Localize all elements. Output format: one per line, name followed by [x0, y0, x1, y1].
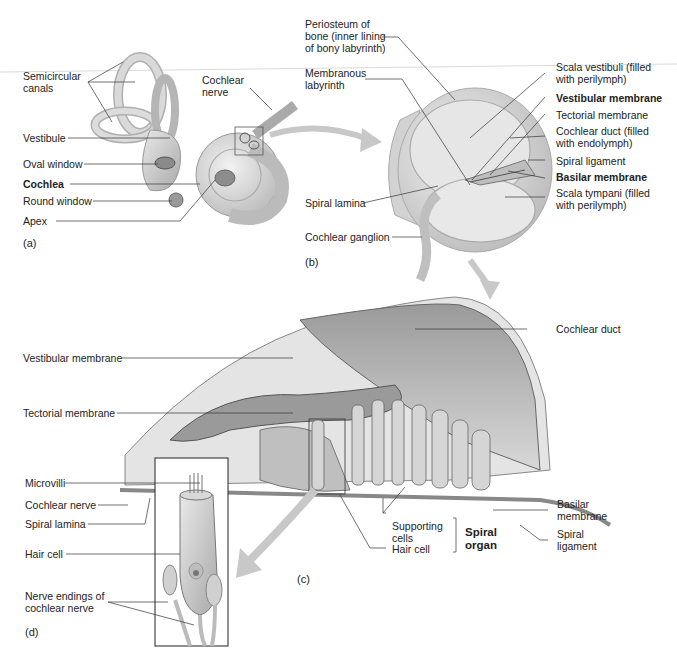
label-vestibule: Vestibule: [23, 132, 66, 144]
label-cochlear-duct-b: Cochlear duct (filled with endolymph): [556, 125, 649, 149]
panel-label-b: (b): [305, 256, 318, 268]
label-round-window: Round window: [23, 195, 92, 207]
label-tectorial-membrane-c: Tectorial membrane: [23, 407, 115, 419]
label-spiral-ligament-c: Spiral ligament: [557, 528, 597, 552]
label-supporting-cells: Supporting cells: [392, 520, 443, 544]
label-basilar-membrane-b: Basilar membrane: [556, 171, 647, 183]
label-oval-window: Oval window: [23, 158, 83, 170]
label-apex: Apex: [23, 215, 47, 227]
label-hair-cell-d: Hair cell: [25, 548, 63, 560]
label-basilar-membrane-c: Basilar membrane: [557, 498, 607, 522]
label-tectorial-membrane-b: Tectorial membrane: [556, 109, 648, 121]
label-nerve-endings: Nerve endings of cochlear nerve: [25, 590, 104, 614]
panel-label-d: (d): [25, 626, 38, 638]
label-cochlea: Cochlea: [23, 178, 64, 190]
label-scala-tympani: Scala tympani (filled with perilymph): [556, 187, 650, 211]
label-periosteum: Periosteum of bone (inner lining of bony…: [305, 18, 386, 54]
label-hair-cell-c: Hair cell: [392, 543, 430, 555]
label-vestibular-membrane-c: Vestibular membrane: [23, 352, 122, 364]
panel-label-a: (a): [23, 237, 36, 249]
label-cochlear-nerve-a: Cochlear nerve: [202, 74, 244, 98]
cochlea-cross-section-drawing: [389, 88, 552, 300]
label-vestibular-membrane-b: Vestibular membrane: [556, 92, 662, 104]
label-spiral-ligament-b: Spiral ligament: [556, 155, 625, 167]
label-membranous-labyrinth: Membranous labyrinth: [305, 67, 366, 91]
label-semicircular-canals: Semicircular canals: [23, 70, 81, 94]
label-cochlear-duct-c: Cochlear duct: [556, 323, 621, 335]
label-microvilli: Microvilli: [25, 477, 65, 489]
label-spiral-lamina-d: Spiral lamina: [25, 518, 86, 530]
label-scala-vestibuli: Scala vestibuli (filled with perilymph): [556, 61, 651, 85]
label-spiral-lamina-b: Spiral lamina: [305, 197, 366, 209]
label-cochlear-ganglion: Cochlear ganglion: [305, 231, 390, 243]
label-cochlear-nerve-d: Cochlear nerve: [25, 499, 96, 511]
panel-label-c: (c): [297, 573, 310, 585]
label-spiral-organ: Spiral organ: [465, 526, 497, 552]
